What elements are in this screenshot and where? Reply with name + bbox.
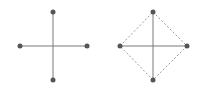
diamond-cross-figure: [118, 10, 190, 83]
dashed-edge: [120, 12, 153, 46]
node-dot: [118, 44, 123, 49]
node-dot: [85, 44, 90, 49]
node-dot: [18, 44, 23, 49]
cross-figure: [18, 10, 90, 83]
node-dot: [51, 10, 56, 15]
dashed-edge: [120, 46, 153, 80]
dashed-edge: [153, 12, 187, 46]
node-dot: [151, 78, 156, 83]
diagram-canvas: [0, 0, 200, 88]
node-dot: [185, 44, 190, 49]
node-dot: [51, 78, 56, 83]
node-dot: [151, 10, 156, 15]
dashed-edge: [153, 46, 187, 80]
